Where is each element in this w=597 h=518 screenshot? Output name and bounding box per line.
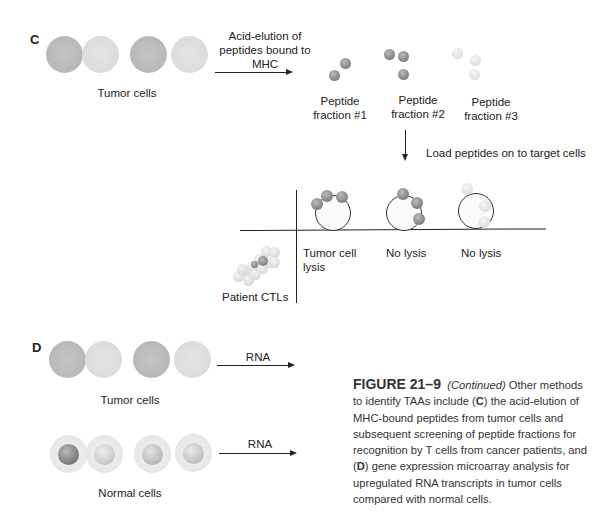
rna-arrow-2: [219, 453, 291, 454]
normal-cell: [86, 435, 123, 473]
caption-continued: (Continued): [447, 379, 505, 391]
peptide-dot: [398, 69, 409, 80]
nucleus: [142, 444, 163, 465]
tumor-cell: [46, 36, 83, 73]
peptide-dot: [397, 188, 409, 200]
fraction-label-line: Peptide: [456, 95, 526, 109]
rna-arrow-1: [217, 365, 289, 366]
nucleus: [94, 444, 115, 465]
elution-label-line: peptides bound to: [210, 43, 320, 57]
caption-text: ) gene expression microarray analysis fo…: [353, 460, 569, 505]
load-label: Load peptides on to target cells: [426, 146, 597, 160]
fraction-label-1: Peptide fraction #1: [305, 94, 375, 122]
result-label-line: lysis: [303, 260, 373, 274]
elution-label: Acid-elution of peptides bound to MHC: [210, 29, 320, 71]
peptide-dot: [478, 216, 490, 228]
fraction-label-3: Peptide fraction #3: [456, 95, 526, 123]
peptide-dot: [311, 198, 323, 210]
caption-ref-c: C: [476, 395, 484, 407]
tumor-cell: [174, 341, 211, 378]
peptide-dot: [251, 261, 258, 268]
caption-ref-d: D: [357, 460, 365, 472]
peptide-dot: [469, 69, 480, 80]
peptide-dot: [461, 183, 473, 195]
peptide-dot: [329, 70, 340, 81]
nucleus: [58, 444, 79, 465]
fraction-label-line: Peptide: [305, 94, 375, 108]
nucleus: [183, 443, 204, 464]
tumor-cell: [130, 36, 167, 73]
patient-ctls-label: Patient CTLs: [222, 290, 294, 304]
arrowhead-icon: [288, 362, 295, 368]
peptide-dot: [336, 191, 348, 203]
panel-letter-d: D: [32, 340, 41, 355]
tumor-cell: [133, 341, 170, 378]
result-label-3: No lysis: [461, 246, 521, 260]
figure-caption: FIGURE 21–9 (Continued) Other methods to…: [353, 376, 593, 507]
normal-cell: [175, 434, 212, 472]
peptide-dot: [384, 49, 395, 60]
tumor-cell: [82, 36, 119, 73]
elution-arrow: [215, 72, 287, 73]
result-label-2: No lysis: [386, 246, 446, 260]
tumor-cells-label-d: Tumor cells: [95, 393, 165, 407]
normal-cell: [134, 435, 171, 473]
load-arrow: [405, 130, 406, 155]
arrowhead-icon: [402, 154, 408, 161]
elution-label-line: Acid-elution of: [210, 29, 320, 43]
fraction-label-line: fraction #2: [383, 107, 453, 121]
peptide-dot: [411, 197, 423, 209]
peptide-dot: [479, 200, 491, 212]
peptide-dot: [398, 51, 409, 62]
panel-letter-c: C: [30, 32, 39, 47]
figure-number: FIGURE 21–9: [353, 376, 441, 392]
arrowhead-icon: [286, 69, 293, 75]
tumor-cell: [85, 341, 122, 378]
normal-cells-label: Normal cells: [95, 486, 165, 500]
peptide-dot: [452, 48, 463, 59]
elution-label-line: MHC: [210, 57, 320, 71]
tumor-cell: [171, 36, 208, 73]
fraction-label-2: Peptide fraction #2: [383, 93, 453, 121]
assay-horizontal-axis: [240, 228, 546, 231]
tumor-cell: [49, 341, 86, 378]
peptide-dot: [340, 58, 351, 69]
fraction-label-line: fraction #3: [456, 109, 526, 123]
fraction-label-line: Peptide: [383, 93, 453, 107]
peptide-dot: [413, 213, 425, 225]
peptide-dot: [321, 190, 333, 202]
peptide-dot: [470, 55, 481, 66]
normal-cell: [50, 435, 87, 473]
result-label-1: Tumor cell lysis: [303, 246, 373, 274]
rna-label-2: RNA: [240, 437, 280, 451]
arrowhead-icon: [290, 450, 297, 456]
assay-vertical-axis: [296, 190, 297, 303]
tumor-cells-label-c: Tumor cells: [92, 86, 162, 100]
fraction-label-line: fraction #1: [305, 108, 375, 122]
rna-label-1: RNA: [238, 350, 278, 364]
result-label-line: Tumor cell: [303, 246, 373, 260]
peptide-dot: [258, 256, 268, 266]
